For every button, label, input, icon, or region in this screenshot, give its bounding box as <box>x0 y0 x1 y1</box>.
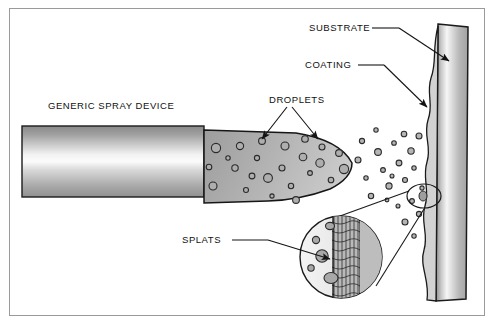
spray-plume <box>204 130 352 203</box>
label-substrate: SUBSTRATE <box>309 22 370 33</box>
label-droplets: DROPLETS <box>269 94 325 105</box>
coating-layer <box>423 26 438 301</box>
substrate-bar <box>436 24 468 301</box>
splat-magnifier-circle <box>300 214 386 302</box>
generic-spray-device-body <box>22 126 204 197</box>
coating-arrow <box>384 65 427 107</box>
figure-canvas: GENERIC SPRAY DEVICE SUBSTRATE COATING D… <box>0 0 495 326</box>
droplets-in-flight <box>355 128 424 238</box>
schematic-illustration <box>0 0 495 326</box>
label-coating: COATING <box>305 59 351 70</box>
label-generic-spray-device: GENERIC SPRAY DEVICE <box>48 100 174 111</box>
label-splats: SPLATS <box>182 234 221 245</box>
